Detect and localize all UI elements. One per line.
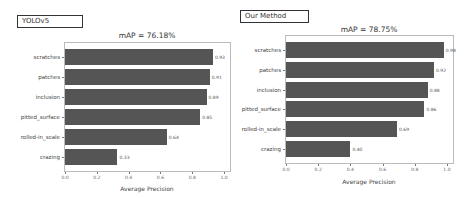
x-tick-mark [286, 164, 287, 166]
x-axis-label: Average Precision [342, 178, 395, 185]
bar-value-label: 0.92 [436, 67, 446, 72]
category-label: patches [259, 67, 281, 73]
x-tick-label: 0.6 [379, 167, 386, 172]
category-label: crazing [261, 146, 281, 152]
bar [286, 141, 350, 157]
chart-title: mAP = 78.75% [285, 25, 453, 34]
x-tick-label: 0.0 [282, 167, 289, 172]
y-tick-mark [283, 90, 285, 91]
x-tick-label: 0.2 [315, 167, 322, 172]
x-tick-label: 0.8 [411, 167, 418, 172]
bar [286, 121, 397, 137]
bar-value-label: 0.40 [352, 147, 362, 152]
category-label: inclusion [257, 87, 281, 93]
x-tick-label: 0.4 [347, 167, 354, 172]
method-label-box: Our Method [240, 10, 309, 23]
category-label: scratches [255, 47, 281, 53]
bar [286, 101, 424, 117]
x-tick-label: 1.0 [443, 167, 450, 172]
x-tick-mark [350, 164, 351, 166]
x-tick-mark [383, 164, 384, 166]
x-tick-mark [318, 164, 319, 166]
category-label: pitted_surface [242, 106, 281, 112]
bar [286, 82, 428, 98]
y-tick-mark [283, 109, 285, 110]
bar-value-label: 0.86 [426, 107, 436, 112]
x-tick-mark [447, 164, 448, 166]
y-tick-mark [283, 70, 285, 71]
y-tick-mark [283, 129, 285, 130]
y-tick-mark [283, 149, 285, 150]
x-tick-mark [415, 164, 416, 166]
category-label: rolled-in_scale [242, 126, 281, 132]
bar [286, 62, 434, 78]
chart-our-method: Our Method mAP = 78.75% Average Precisio… [0, 0, 468, 198]
bar-value-label: 0.88 [430, 87, 440, 92]
bar-value-label: 0.69 [399, 127, 409, 132]
y-tick-mark [283, 50, 285, 51]
bar-value-label: 0.98 [446, 47, 456, 52]
bar [286, 42, 444, 58]
